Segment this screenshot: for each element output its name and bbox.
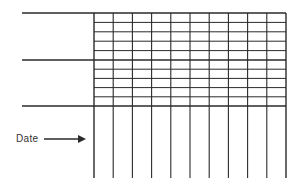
date-label: Date <box>16 133 38 144</box>
grid-chart <box>0 0 302 185</box>
arrow-right-icon <box>78 135 86 143</box>
